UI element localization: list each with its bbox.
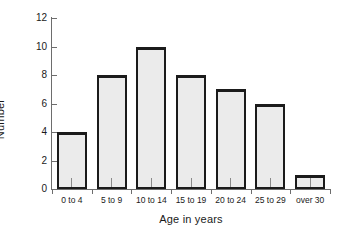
bar [176,75,206,189]
y-axis-title: Number [0,0,26,238]
bar-chart-figure: Number 024681012 0 to 45 to 910 to 1415 … [0,0,339,238]
bar [255,104,285,190]
bar [97,75,127,189]
x-axis-tick [251,189,252,194]
x-axis-tick [330,189,331,194]
y-axis-tick-label: 6 [8,99,52,109]
x-axis-tick-label: 20 to 24 [211,195,251,205]
x-axis-tick [211,189,212,194]
bar [216,89,246,189]
y-axis-tick-label: 12 [8,13,52,23]
bar [136,47,166,190]
x-axis-tick [52,189,53,194]
x-axis-tick-label: 15 to 19 [171,195,211,205]
y-axis-tick-label: 0 [8,184,52,194]
x-axis-tick-label: 25 to 29 [251,195,291,205]
x-axis-tick [131,189,132,194]
x-axis-tick-label: over 30 [290,195,330,205]
x-axis-tick-label: 10 to 14 [131,195,171,205]
x-axis-tick [92,189,93,194]
x-axis-title: Age in years [52,213,330,225]
x-axis-line [52,189,330,190]
y-axis-tick-label: 10 [8,42,52,52]
y-axis-tick-label: 2 [8,156,52,166]
x-axis-tick [171,189,172,194]
bar-center-tick [191,178,192,187]
bar-center-tick [71,178,72,187]
bar-center-tick [151,178,152,187]
x-axis-tick-label: 5 to 9 [92,195,132,205]
y-axis-tick-label: 8 [8,70,52,80]
plot-area [52,18,330,189]
y-axis-tick-label: 4 [8,127,52,137]
bar-center-tick [310,178,311,187]
bar [295,175,325,189]
x-axis-tick-label: 0 to 4 [52,195,92,205]
bar [57,132,87,189]
x-axis-tick [290,189,291,194]
bar-center-tick [270,178,271,187]
bar-center-tick [230,178,231,187]
bar-center-tick [111,178,112,187]
